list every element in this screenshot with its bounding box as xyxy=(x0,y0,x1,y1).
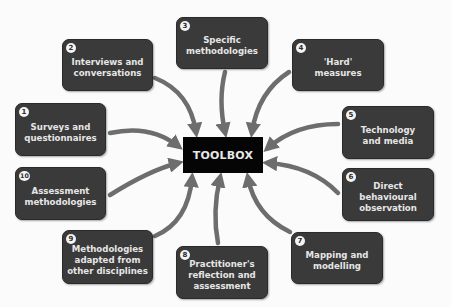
node-label: Specific methodologies xyxy=(182,29,262,57)
arrow-from-node-1 xyxy=(110,130,178,146)
number-badge: 9 xyxy=(66,234,76,244)
node-assessment-methodologies: 10 Assessment methodologies xyxy=(15,167,106,220)
node-label: Assessment methodologies xyxy=(21,180,101,208)
arrow-from-node-7 xyxy=(248,178,290,232)
node-label: 'Hard' measures xyxy=(311,51,366,79)
arrow-from-node-3 xyxy=(222,72,226,132)
number-badge: 6 xyxy=(346,172,356,182)
node-label: Methodologies adapted from other discipl… xyxy=(63,238,152,277)
arrow-from-node-2 xyxy=(155,78,196,132)
node-technology-and-media: 5 Technology and media xyxy=(342,106,434,159)
node-hard-measures: 4 'Hard' measures xyxy=(292,39,384,91)
number-badge: 4 xyxy=(296,43,306,53)
node-mapping-and-modelling: 7 Mapping and modelling xyxy=(291,232,383,284)
node-methodologies-adapted-from-other-disciplines: 9 Methodologies adapted from other disci… xyxy=(62,230,153,284)
arrow-from-node-6 xyxy=(268,163,338,193)
node-surveys-and-questionnaires: 1 Surveys and questionnaires xyxy=(15,103,106,156)
toolbox-label: TOOLBOX xyxy=(193,149,253,162)
node-direct-behavioural-observation: 6 Direct behavioural observation xyxy=(342,168,434,221)
arrow-from-node-4 xyxy=(252,72,289,132)
node-label: Mapping and modelling xyxy=(302,244,373,272)
number-badge: 10 xyxy=(19,171,30,181)
node-label: Interviews and conversations xyxy=(68,51,148,79)
arrow-from-node-10 xyxy=(110,163,178,195)
number-badge: 3 xyxy=(180,21,190,31)
number-badge: 1 xyxy=(19,107,29,117)
node-practitioners-reflection-and-assessment: 8 Practitioner's reflection and assessme… xyxy=(176,246,268,299)
node-label: Practitioner's reflection and assessment xyxy=(184,253,260,292)
arrow-from-node-8 xyxy=(215,178,220,243)
number-badge: 8 xyxy=(180,250,190,260)
node-label: Technology and media xyxy=(357,119,419,147)
node-interviews-and-conversations: 2 Interviews and conversations xyxy=(62,39,153,91)
toolbox-center-box: TOOLBOX xyxy=(183,137,263,173)
arrow-from-node-9 xyxy=(155,178,192,236)
node-label: Direct behavioural observation xyxy=(355,175,421,214)
node-label: Surveys and questionnaires xyxy=(20,116,100,144)
arrow-from-node-5 xyxy=(268,124,338,148)
number-badge: 2 xyxy=(66,43,76,53)
number-badge: 7 xyxy=(295,236,305,246)
number-badge: 5 xyxy=(346,110,356,120)
node-specific-methodologies: 3 Specific methodologies xyxy=(176,17,268,69)
